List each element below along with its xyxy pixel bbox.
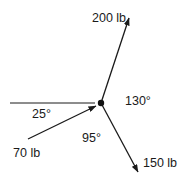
angle-95-label: 95° <box>82 131 101 145</box>
force-150-arrow <box>101 103 138 172</box>
force-200-label: 200 lb <box>92 11 126 25</box>
angle-25-label: 25° <box>32 107 51 121</box>
angle-130-label: 130° <box>125 94 151 108</box>
force-150-label: 150 lb <box>143 156 177 170</box>
center-point <box>98 100 104 106</box>
force-70-label: 70 lb <box>13 146 40 160</box>
force-diagram: 200 lb 150 lb 70 lb 130° 25° 95° <box>0 0 183 181</box>
force-diagram-svg: 200 lb 150 lb 70 lb 130° 25° 95° <box>0 0 183 181</box>
force-200-arrow <box>101 18 129 103</box>
